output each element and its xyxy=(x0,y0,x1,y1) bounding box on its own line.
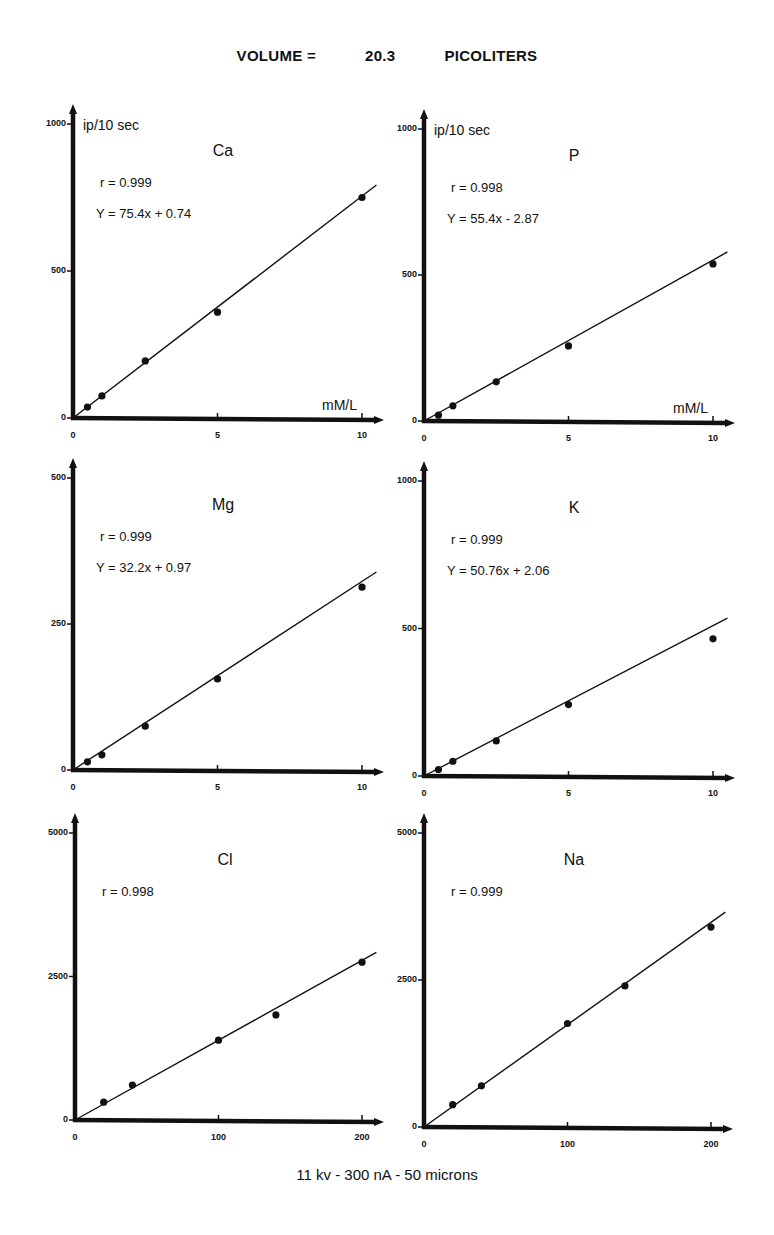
y-tick-label: 2500 xyxy=(48,971,68,981)
ca-data-point xyxy=(84,404,91,411)
p-data-point xyxy=(565,342,572,349)
mg-x-axis xyxy=(71,770,376,772)
y-tick-label: 0 xyxy=(61,412,66,422)
x-tick-label: 0 xyxy=(72,1132,77,1142)
x-tick-label: 5 xyxy=(215,430,220,440)
k-data-point xyxy=(449,758,456,765)
ca-element-label: Ca xyxy=(213,142,234,159)
y-tick-label: 500 xyxy=(402,269,417,279)
mg-data-point xyxy=(214,675,221,682)
y-tick-label: 1000 xyxy=(46,118,66,128)
ca-data-point xyxy=(98,392,105,399)
arrow-right-icon xyxy=(374,1118,384,1126)
calibration-charts: 050010000510ip/10 secmM/LCar = 0.999Y = … xyxy=(0,0,774,1235)
na-data-point xyxy=(449,1101,456,1108)
mg-regression-equation: Y = 32.2x + 0.97 xyxy=(96,560,191,575)
x-tick-label: 0 xyxy=(70,430,75,440)
y-tick-label: 1000 xyxy=(397,475,417,485)
na-data-point xyxy=(707,923,714,930)
y-tick-label: 0 xyxy=(412,1121,417,1131)
y-tick-label: 5000 xyxy=(48,827,68,837)
k-fit-line xyxy=(424,618,727,776)
x-tick-label: 0 xyxy=(421,1139,426,1149)
na-x-axis xyxy=(422,1127,725,1129)
mg-data-point xyxy=(142,723,149,730)
mg-correlation: r = 0.999 xyxy=(100,529,152,544)
cl-correlation: r = 0.998 xyxy=(102,884,154,899)
na-data-point xyxy=(478,1082,485,1089)
arrow-up-icon xyxy=(69,104,77,114)
x-tick-label: 0 xyxy=(70,782,75,792)
k-element-label: K xyxy=(569,499,580,516)
p-x-axis xyxy=(422,421,727,423)
cl-data-point xyxy=(100,1099,107,1106)
y-tick-label: 250 xyxy=(51,618,66,628)
y-tick-label: 1000 xyxy=(397,123,417,133)
cl-data-point xyxy=(358,959,365,966)
y-tick-label: 0 xyxy=(61,764,66,774)
y-tick-label: 500 xyxy=(51,472,66,482)
x-tick-label: 0 xyxy=(421,433,426,443)
arrow-up-icon xyxy=(420,813,428,823)
x-tick-label: 5 xyxy=(215,782,220,792)
arrow-right-icon xyxy=(725,774,735,782)
ca-data-point xyxy=(142,357,149,364)
na-data-point xyxy=(621,982,628,989)
mg-fit-line xyxy=(73,572,376,770)
y-unit-label: ip/10 sec xyxy=(83,117,139,133)
y-tick-label: 2500 xyxy=(397,974,417,984)
p-data-point xyxy=(709,260,716,267)
arrow-up-icon xyxy=(69,458,77,468)
x-tick-label: 200 xyxy=(354,1132,369,1142)
cl-fit-line xyxy=(75,952,376,1120)
x-tick-label: 10 xyxy=(708,788,718,798)
arrow-up-icon xyxy=(420,461,428,471)
x-tick-label: 10 xyxy=(357,430,367,440)
x-tick-label: 10 xyxy=(708,433,718,443)
x-tick-label: 0 xyxy=(421,788,426,798)
k-data-point xyxy=(493,737,500,744)
x-tick-label: 200 xyxy=(703,1139,718,1149)
p-data-point xyxy=(493,378,500,385)
ca-x-axis xyxy=(71,418,376,420)
mg-data-point xyxy=(84,758,91,765)
y-tick-label: 500 xyxy=(402,623,417,633)
p-regression-equation: Y = 55.4x - 2.87 xyxy=(447,211,539,226)
k-data-point xyxy=(709,635,716,642)
na-fit-line xyxy=(424,912,725,1127)
k-regression-equation: Y = 50.76x + 2.06 xyxy=(447,563,549,578)
p-fit-line xyxy=(424,252,727,421)
mg-element-label: Mg xyxy=(212,496,234,513)
y-tick-label: 0 xyxy=(63,1114,68,1124)
x-tick-label: 100 xyxy=(560,1139,575,1149)
ca-correlation: r = 0.999 xyxy=(100,175,152,190)
y-tick-label: 0 xyxy=(412,770,417,780)
cl-data-point xyxy=(272,1011,279,1018)
arrow-right-icon xyxy=(374,768,384,776)
ca-regression-equation: Y = 75.4x + 0.74 xyxy=(96,206,191,221)
mg-data-point xyxy=(98,751,105,758)
arrow-right-icon xyxy=(723,1125,733,1133)
cl-element-label: Cl xyxy=(217,851,232,868)
na-data-point xyxy=(564,1020,571,1027)
arrow-up-icon xyxy=(71,813,79,823)
p-correlation: r = 0.998 xyxy=(451,180,503,195)
arrow-up-icon xyxy=(420,109,428,119)
k-x-axis xyxy=(422,776,727,778)
y-tick-label: 500 xyxy=(51,265,66,275)
y-tick-label: 0 xyxy=(412,415,417,425)
arrow-right-icon xyxy=(374,416,384,424)
x-unit-label: mM/L xyxy=(673,400,708,416)
x-tick-label: 10 xyxy=(357,782,367,792)
arrow-right-icon xyxy=(725,419,735,427)
ca-data-point xyxy=(358,194,365,201)
k-data-point xyxy=(435,766,442,773)
x-tick-label: 5 xyxy=(566,433,571,443)
cl-data-point xyxy=(129,1081,136,1088)
x-tick-label: 100 xyxy=(211,1132,226,1142)
mg-data-point xyxy=(358,584,365,591)
cl-x-axis xyxy=(73,1120,376,1122)
na-element-label: Na xyxy=(564,851,585,868)
na-correlation: r = 0.999 xyxy=(451,884,503,899)
x-tick-label: 5 xyxy=(566,788,571,798)
